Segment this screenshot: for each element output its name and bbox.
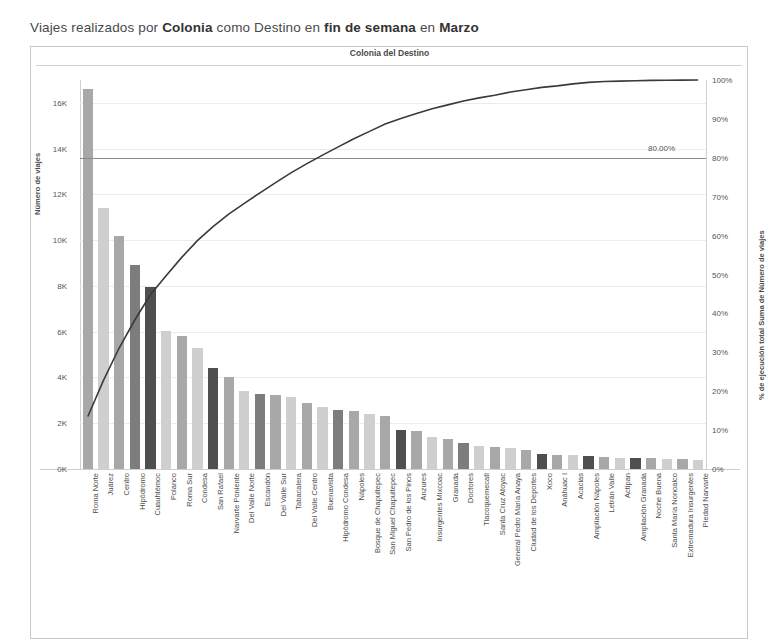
y-tick-label-right: 50% (712, 270, 728, 279)
y-tick-label-left: 0K (57, 465, 73, 474)
title-part-marzo: Marzo (439, 20, 479, 35)
x-tick-label: Hipódromo Condesa (341, 473, 350, 542)
chart-subtitle: Colonia del Destino (0, 48, 779, 58)
x-tick-label: Tabacalera (294, 473, 303, 510)
x-tick-label: Centro (122, 473, 131, 496)
y-tick-label-right: 40% (712, 309, 728, 318)
y-tick-label-left: 6K (57, 327, 73, 336)
x-tick-label: Ampliación Nápoles (592, 473, 601, 539)
x-tick-label: Actipan (623, 473, 632, 498)
title-part-colonia: Colonia (162, 20, 213, 35)
x-tick-label: Bosque de Chapultepec (373, 473, 382, 553)
title-part-mid2: en (416, 20, 439, 35)
cumulative-line-series (80, 80, 706, 469)
x-tick-label: Anzures (419, 473, 428, 501)
y-tick-label-right: 20% (712, 387, 728, 396)
y-tick-label-left: 4K (57, 373, 73, 382)
y-tick-label-left: 2K (57, 419, 73, 428)
x-tick-label: Polanco (169, 473, 178, 500)
x-tick-label: Roma Norte (91, 473, 100, 513)
x-tick-label: San Miguel Chapultepec (388, 473, 397, 555)
x-tick-label: Del Valle Norte (247, 473, 256, 523)
y-tick-label-left: 10K (53, 236, 73, 245)
y-tick-label-left: 12K (53, 190, 73, 199)
x-tick-label: Anáhuac I (560, 473, 569, 507)
x-tick-label: Santa Cruz Atoyac (498, 473, 507, 535)
x-axis-line (40, 469, 740, 470)
y-tick-label-right: 100% (712, 76, 732, 85)
x-tick-label: Noche Buena (654, 473, 663, 518)
x-tick-label: Escandón (263, 473, 272, 506)
x-tick-label: Extremadura Insurgentes (686, 473, 695, 557)
x-tick-label: Narvarte Poniente (232, 473, 241, 533)
y-tick-label-left: 8K (57, 281, 73, 290)
x-tick-label: Granada (451, 473, 460, 502)
y-tick-label-right: 70% (712, 192, 728, 201)
y-tick-label-right: 10% (712, 426, 728, 435)
x-tick-label: General Pedro María Anaya (513, 473, 522, 566)
x-tick-label: Buenavista (326, 473, 335, 510)
y-tick-label-left: 16K (53, 98, 73, 107)
x-tick-label: Cuauhtémoc (153, 473, 162, 516)
y-tick-label-right: 80% (712, 153, 728, 162)
x-tick-label: Acacias (576, 473, 585, 499)
x-tick-label: Ciudad de los Deportes (529, 473, 538, 551)
title-part-prefix: Viajes realizados por (30, 20, 162, 35)
x-tick-label: San Pedro de los Pinos (404, 473, 413, 551)
x-tick-label: Xoco (545, 473, 554, 490)
subtitle-divider (36, 65, 742, 66)
x-tick-label: Juárez (106, 473, 115, 496)
cumulative-curve-path (88, 80, 698, 416)
y-axis-right-title: % de ejecución total Suma de Número de v… (757, 230, 766, 400)
x-tick-label: Roma Sur (185, 473, 194, 507)
y-tick-label-right: 0% (712, 465, 724, 474)
y-tick-label-right: 90% (712, 114, 728, 123)
y-tick-label-right: 60% (712, 231, 728, 240)
page-title: Viajes realizados por Colonia como Desti… (30, 20, 479, 35)
x-tick-label: Hipódromo (138, 473, 147, 510)
y-axis-left-title: Número de viajes (33, 153, 42, 215)
title-part-mid1: como Destino en (213, 20, 324, 35)
x-tick-label: San Rafael (216, 473, 225, 510)
title-part-finde: fin de semana (324, 20, 416, 35)
x-tick-label: Doctores (466, 473, 475, 503)
x-tick-label: Del Valle Sur (279, 473, 288, 516)
x-tick-label: Insurgentes Mixcoac (435, 473, 444, 542)
y-axis-right-line (706, 80, 707, 470)
x-tick-label: Santa María Nonoalco (670, 473, 679, 548)
x-tick-label: Letrán Valle (607, 473, 616, 512)
x-tick-label: Tlacoquemecatl (482, 473, 491, 526)
x-tick-label: Del Valle Centro (310, 473, 319, 527)
y-tick-label-left: 14K (53, 144, 73, 153)
x-tick-label: Piedad Narvarte (701, 473, 710, 527)
x-tick-label: Ampliación Granada (639, 473, 648, 541)
y-tick-label-right: 30% (712, 348, 728, 357)
x-tick-label: Condesa (200, 473, 209, 503)
x-axis-labels: Roma NorteJuárezCentroHipódromoCuauhtémo… (80, 473, 706, 638)
x-tick-label: Nápoles (357, 473, 366, 501)
